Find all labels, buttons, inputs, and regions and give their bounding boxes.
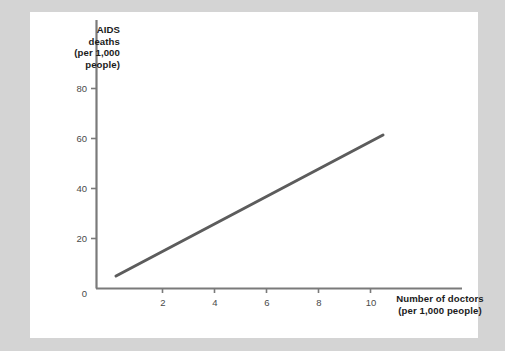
y-tick-label-40: 40 xyxy=(61,183,87,194)
y-tick-label-80: 80 xyxy=(61,83,87,94)
x-tick-label-2: 2 xyxy=(153,297,173,308)
x-tick-label-8: 8 xyxy=(309,297,329,308)
y-tick-label-20: 20 xyxy=(61,233,87,244)
data-line-series-1 xyxy=(116,135,383,276)
x-axis-title: Number of doctors (per 1,000 people) xyxy=(375,293,505,316)
y-axis-title: AIDS deaths (per 1,000 people) xyxy=(30,24,120,71)
x-tick-label-6: 6 xyxy=(257,297,277,308)
y-tick-label-60: 60 xyxy=(61,133,87,144)
chart-card: AIDS deaths (per 1,000 people) Number of… xyxy=(30,12,478,338)
x-tick-label-4: 4 xyxy=(205,297,225,308)
y-tick-label-0: 0 xyxy=(61,288,87,299)
x-tick-label-10: 10 xyxy=(361,297,381,308)
